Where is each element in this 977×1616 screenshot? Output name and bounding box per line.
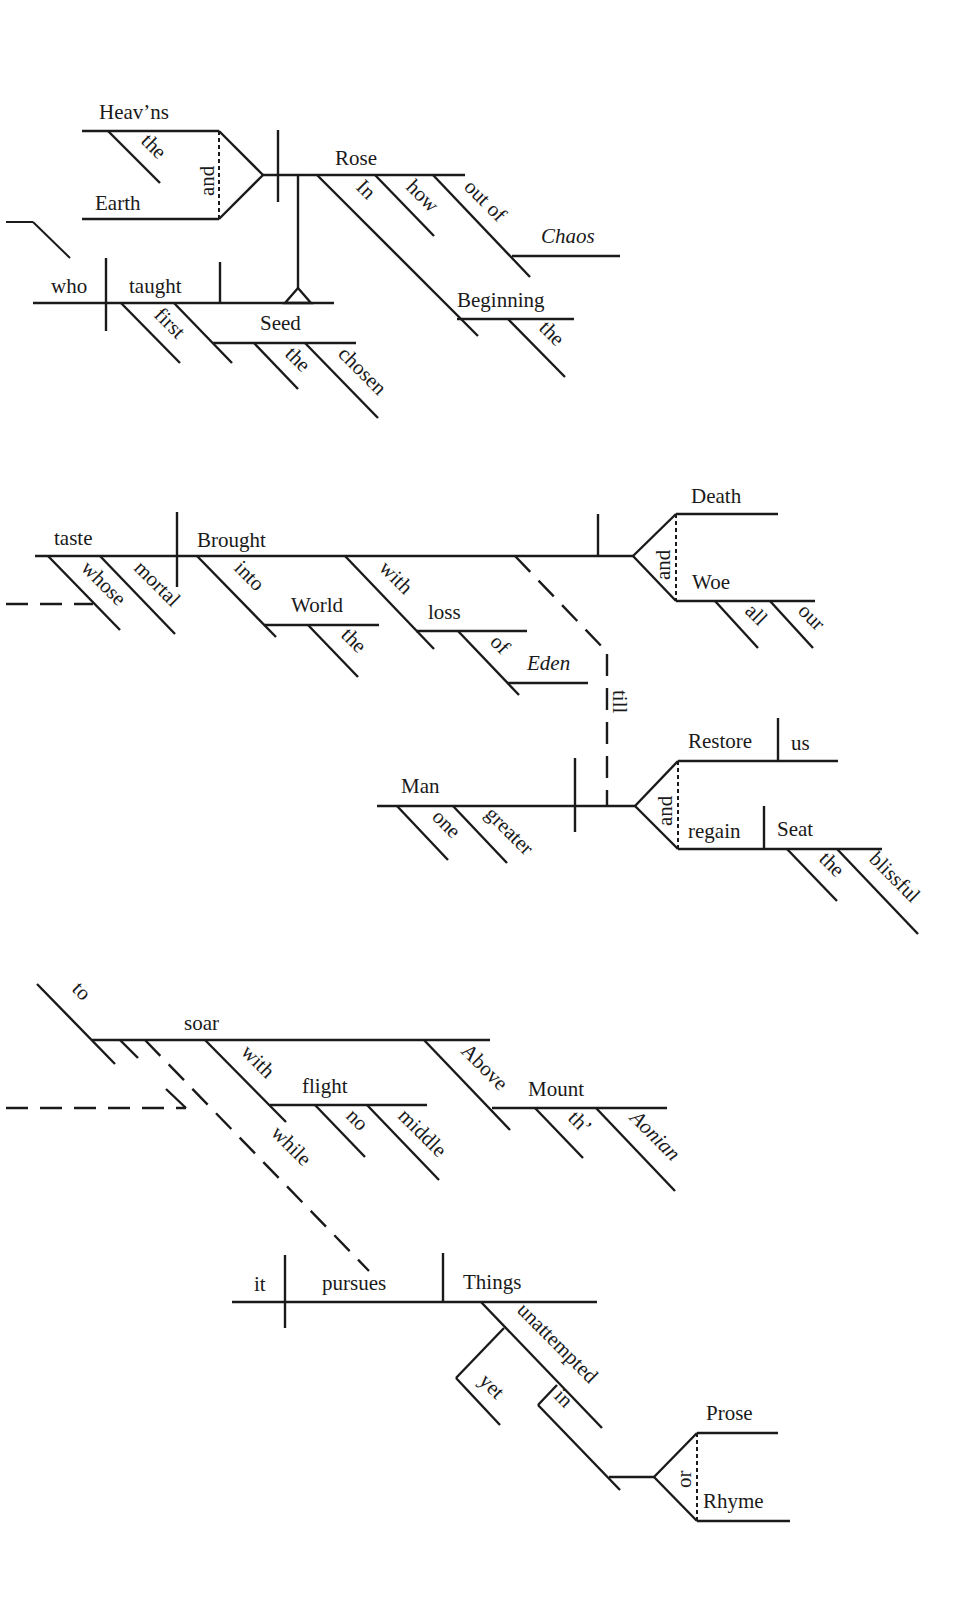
word-it: it <box>254 1272 266 1296</box>
word-seed: Seed <box>260 311 301 335</box>
word-eden: Eden <box>526 651 570 675</box>
word-beginning: Beginning <box>457 288 545 312</box>
word-rhyme: Rhyme <box>703 1489 764 1513</box>
word-man: Man <box>401 774 440 798</box>
word-aonian: Aonian <box>624 1104 685 1165</box>
word-in: In <box>351 175 381 205</box>
word-regain: regain <box>688 819 741 843</box>
word-the: the <box>534 316 569 351</box>
word-the: the <box>814 847 849 882</box>
conjunction-and: and <box>651 549 675 580</box>
word-world: World <box>291 593 343 617</box>
word-out-of: out of <box>459 175 511 227</box>
word-soar: soar <box>184 1011 219 1035</box>
word-one: one <box>427 805 465 843</box>
conjunction-and: and <box>195 165 219 196</box>
clause-3: to soar with flight no middle Above Moun… <box>6 977 790 1521</box>
word-rose: Rose <box>335 146 377 170</box>
word-all: all <box>740 599 772 631</box>
sentence-diagram: Heav’ns the Earth and Rose In how out of… <box>0 0 977 1616</box>
word-pursues: pursues <box>322 1271 386 1295</box>
word-blissful: blissful <box>864 847 925 908</box>
word-woe: Woe <box>692 570 730 594</box>
conjunction-and: and <box>653 795 677 826</box>
word-middle: middle <box>393 1104 451 1162</box>
word-loss: loss <box>428 600 461 624</box>
word-no: no <box>341 1104 373 1136</box>
word-death: Death <box>691 484 742 508</box>
word-unattempted: unattempted <box>512 1298 603 1389</box>
word-things: Things <box>463 1270 521 1294</box>
word-while: while <box>266 1121 316 1171</box>
word-taught: taught <box>129 274 182 298</box>
word-mount: Mount <box>528 1077 584 1101</box>
word-above: Above <box>456 1039 513 1096</box>
word-whose: whose <box>76 556 131 611</box>
conjunction-or: or <box>672 1471 696 1489</box>
word-chaos: Chaos <box>541 224 595 248</box>
word-restore: Restore <box>688 729 752 753</box>
word-chosen: chosen <box>333 342 392 401</box>
word-heavns: Heav’ns <box>99 100 169 124</box>
word-prose: Prose <box>706 1401 753 1425</box>
word-the: the <box>136 129 171 164</box>
word-to: to <box>67 977 96 1006</box>
word-the: the <box>336 623 371 658</box>
word-brought: Brought <box>197 528 266 552</box>
word-taste: taste <box>54 526 92 550</box>
word-yet: yet <box>474 1369 509 1404</box>
word-of: of <box>485 630 514 659</box>
word-who: who <box>51 274 87 298</box>
word-seat: Seat <box>777 817 813 841</box>
word-our: our <box>793 599 830 636</box>
word-th: th’ <box>563 1106 596 1139</box>
clause-2: taste whose mortal Brought into World th… <box>6 484 925 934</box>
word-into: into <box>229 556 269 596</box>
clause-1: Heav’ns the Earth and Rose In how out of… <box>6 100 620 418</box>
word-greater: greater <box>480 802 538 860</box>
word-till: till <box>608 690 632 714</box>
word-us: us <box>791 731 810 755</box>
word-flight: flight <box>302 1074 348 1098</box>
word-with: with <box>236 1040 280 1084</box>
word-earth: Earth <box>95 191 141 215</box>
